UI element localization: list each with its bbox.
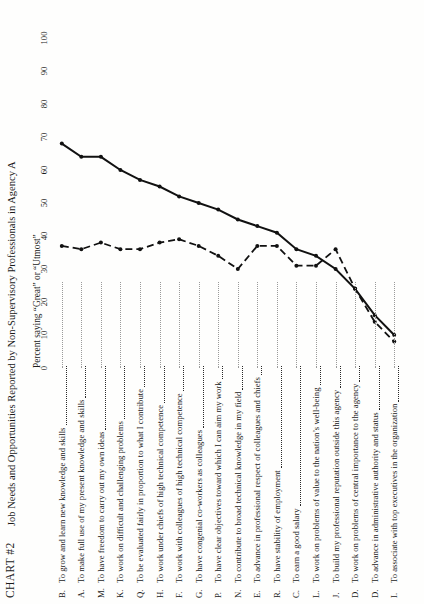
data-point (99, 155, 103, 159)
data-point (177, 237, 181, 241)
data-point (314, 264, 318, 268)
series-canvas (52, 38, 404, 368)
row-text: To associate with top executives in the … (389, 404, 399, 583)
row-text: To earn a good salary (291, 508, 301, 583)
data-point (216, 254, 220, 258)
row-key: H. (155, 583, 165, 598)
axis-tick-20: 20 (39, 298, 49, 307)
axis-tick-10: 10 (39, 331, 49, 340)
row-label: I.To associate with top executives in th… (387, 366, 401, 598)
row-label: L.To work on problems of value to the na… (309, 366, 323, 598)
dot-leader (241, 366, 243, 390)
data-point (118, 247, 122, 251)
row-label: C.To earn a good salary (289, 366, 303, 598)
row-leader (394, 282, 395, 368)
data-point (197, 201, 201, 205)
data-point (79, 155, 83, 159)
row-leader (375, 282, 376, 368)
row-label: B.To grow and learn new knowledge and sk… (55, 366, 69, 598)
dot-leader (280, 366, 282, 468)
row-leader (277, 282, 278, 368)
dot-leader (163, 366, 165, 403)
series-line-need (62, 144, 394, 335)
axis-tick-60: 60 (39, 166, 49, 175)
row-text: To be evaluated fairly in proportion to … (135, 389, 145, 583)
row-label: N.To contribute to broad technical knowl… (231, 366, 245, 598)
row-leader (316, 282, 317, 368)
chart-number: CHART #2 (4, 542, 16, 598)
row-label: J.To build my professional reputation ou… (329, 366, 343, 598)
rotated-figure: CHART #2 Job Needs and Opportunities Rep… (0, 0, 424, 604)
row-label: E.To advance in professional respect of … (250, 366, 264, 598)
row-text: To grow and learn new knowledge and skil… (57, 428, 67, 584)
axis-tick-0: 0 (39, 366, 49, 370)
row-key: L. (311, 583, 321, 598)
row-leader (257, 282, 258, 368)
row-key: J. (331, 583, 341, 598)
row-leader (62, 282, 63, 368)
data-point (236, 267, 240, 271)
data-point (255, 224, 259, 228)
chart-page: CHART #2 Job Needs and Opportunities Rep… (0, 0, 424, 604)
row-leader (336, 282, 337, 368)
row-key: E. (252, 583, 262, 598)
row-leader (179, 282, 180, 368)
row-leader (238, 282, 239, 368)
row-leader (101, 282, 102, 368)
axis-tick-70: 70 (39, 133, 49, 142)
row-text: To have freedom to carry out my own idea… (96, 432, 106, 583)
data-point (294, 247, 298, 251)
data-point (60, 244, 64, 248)
data-point (216, 208, 220, 212)
row-leader (160, 282, 161, 368)
row-label: K.To work on difficult and challenging p… (113, 366, 127, 598)
axis-tick-50: 50 (39, 199, 49, 208)
row-text: To have stability of employment (272, 470, 282, 583)
row-key: P. (213, 583, 223, 598)
row-text: To advance in professional respect of co… (252, 377, 262, 583)
row-label: Q.To be evaluated fairly in proportion t… (133, 366, 147, 598)
row-label: P.To have clear objectives toward which … (211, 366, 225, 598)
data-point (197, 244, 201, 248)
row-text: To work on problems of central importanc… (350, 384, 360, 583)
row-leader (140, 282, 141, 368)
row-text: To work on problems of value to the nati… (311, 387, 321, 583)
axis-tick-40: 40 (39, 232, 49, 241)
row-key: Q. (135, 583, 145, 598)
row-label: D.To work on problems of central importa… (348, 366, 362, 598)
data-point (138, 178, 142, 182)
row-text: To build my professional reputation outs… (331, 390, 341, 583)
data-point (294, 264, 298, 268)
row-key: A. (76, 583, 86, 598)
dot-leader (358, 366, 360, 382)
axis-tick-80: 80 (39, 100, 49, 109)
row-leader (296, 282, 297, 368)
data-point (334, 267, 338, 271)
row-label: G.To have congenial co-workers as collea… (192, 366, 206, 598)
data-point (99, 241, 103, 245)
data-point (79, 247, 83, 251)
row-label: A.To make full use of my present knowled… (74, 366, 88, 598)
row-key: G. (194, 583, 204, 598)
plot-area: 0102030405060708090100 (52, 38, 404, 368)
row-text: To have clear objectives toward which I … (213, 381, 223, 583)
row-text: To make full use of my present knowledge… (76, 400, 86, 583)
row-key: B. (57, 583, 67, 598)
row-leader (120, 282, 121, 368)
dot-leader (319, 366, 321, 385)
dot-leader (397, 366, 399, 402)
series-line-opportunity (62, 239, 394, 341)
row-key: R. (272, 583, 282, 598)
row-text: To work under chiefs of high technical c… (155, 405, 165, 583)
data-point (236, 218, 240, 222)
data-point (275, 231, 279, 235)
chart-title: Job Needs and Opportunities Reported by … (6, 161, 17, 526)
data-point (118, 168, 122, 172)
dot-leader (143, 366, 145, 387)
row-key: I. (389, 583, 399, 598)
row-key: D. (370, 583, 380, 598)
dot-leader (299, 366, 301, 506)
row-leader (199, 282, 200, 368)
row-leader (355, 282, 356, 368)
row-label: R.To have stability of employment (270, 366, 284, 598)
